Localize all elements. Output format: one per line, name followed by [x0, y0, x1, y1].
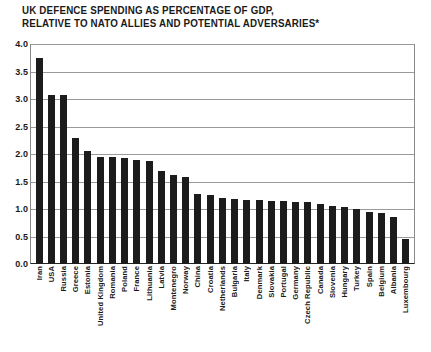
bar-russia	[60, 95, 67, 264]
y-axis-labels: 4.03.53.02.52.01.51.00.50.0	[0, 44, 28, 264]
bar-china	[194, 194, 201, 264]
x-tick-label-usa: USA	[47, 266, 56, 282]
x-label-slot: Slovakia	[265, 266, 277, 352]
x-tick-label-czech-republic: Czech Republic	[303, 266, 312, 324]
x-tick-label-slovenia: Slovenia	[328, 266, 337, 298]
bar-slot	[314, 44, 326, 264]
bar-belgium	[378, 213, 385, 264]
x-label-slot: Czech Republic	[302, 266, 314, 352]
x-label-slot: Lithuania	[143, 266, 155, 352]
bar-latvia	[158, 171, 165, 265]
x-label-slot: Greece	[70, 266, 82, 352]
y-tick-label: 4.0	[2, 39, 28, 49]
x-label-slot: Croatia	[204, 266, 216, 352]
bar-canada	[317, 204, 324, 265]
x-tick-label-france: France	[132, 266, 141, 292]
x-label-slot: Poland	[119, 266, 131, 352]
bar-bulgaria	[231, 199, 238, 264]
bar-netherlands	[219, 198, 226, 264]
x-tick-label-canada: Canada	[316, 266, 325, 294]
bar-slot	[387, 44, 399, 264]
x-label-slot: Bulgaria	[229, 266, 241, 352]
x-tick-label-china: China	[193, 266, 202, 288]
x-label-slot: China	[192, 266, 204, 352]
x-tick-label-poland: Poland	[120, 266, 129, 292]
x-label-slot: Italy	[241, 266, 253, 352]
x-label-slot: Hungary	[338, 266, 350, 352]
x-label-slot: Turkey	[351, 266, 363, 352]
bar-slot	[277, 44, 289, 264]
x-label-slot: USA	[45, 266, 57, 352]
bar-slot	[290, 44, 302, 264]
bar-usa	[48, 95, 55, 264]
bar-slot	[119, 44, 131, 264]
x-tick-label-estonia: Estonia	[83, 266, 92, 294]
y-tick-label: 1.5	[2, 177, 28, 187]
bar-slot	[204, 44, 216, 264]
x-label-slot: Russia	[57, 266, 69, 352]
x-label-slot: United Kingdom	[94, 266, 106, 352]
bar-norway	[182, 177, 189, 264]
bar-slot	[106, 44, 118, 264]
x-tick-label-slovakia: Slovakia	[267, 266, 276, 298]
bar-greece	[72, 138, 79, 265]
x-tick-label-spain: Spain	[365, 266, 374, 287]
bar-croatia	[207, 195, 214, 264]
bar-slot	[229, 44, 241, 264]
bar-slot	[167, 44, 179, 264]
x-label-slot: Luxembourg	[400, 266, 412, 352]
bar-luxembourg	[402, 239, 409, 264]
bar-spain	[366, 212, 373, 264]
bar-slot	[131, 44, 143, 264]
bar-portugal	[280, 201, 287, 264]
bar-germany	[292, 202, 299, 264]
bar-slot	[375, 44, 387, 264]
x-tick-label-turkey: Turkey	[352, 266, 361, 291]
bar-albania	[390, 217, 397, 264]
bar-slot	[253, 44, 265, 264]
y-tick-label: 0.5	[2, 232, 28, 242]
x-tick-label-lithuania: Lithuania	[145, 266, 154, 301]
x-tick-label-germany: Germany	[291, 266, 300, 300]
bar-slot	[192, 44, 204, 264]
x-tick-label-netherlands: Netherlands	[218, 266, 227, 311]
bar-slot	[302, 44, 314, 264]
x-label-slot: Belgium	[375, 266, 387, 352]
x-tick-label-greece: Greece	[71, 266, 80, 292]
x-tick-label-romania: Romania	[108, 266, 117, 299]
x-label-slot: Netherlands	[216, 266, 228, 352]
bar-slot	[326, 44, 338, 264]
bar-slot	[57, 44, 69, 264]
bar-slot	[94, 44, 106, 264]
bar-slot	[155, 44, 167, 264]
bar-slot	[143, 44, 155, 264]
bar-united-kingdom	[97, 157, 104, 264]
bar-slot	[45, 44, 57, 264]
x-tick-label-luxembourg: Luxembourg	[401, 266, 410, 313]
bar-france	[133, 160, 140, 265]
x-label-slot: Denmark	[253, 266, 265, 352]
y-tick-label: 0.0	[2, 259, 28, 269]
y-tick-label: 3.0	[2, 94, 28, 104]
x-label-slot: Montenegro	[167, 266, 179, 352]
x-tick-label-iran: Iran	[35, 266, 44, 280]
x-label-slot: Germany	[290, 266, 302, 352]
x-tick-label-russia: Russia	[59, 266, 68, 292]
x-tick-label-denmark: Denmark	[255, 266, 264, 299]
bar-poland	[121, 158, 128, 264]
x-label-slot: Estonia	[82, 266, 94, 352]
bar-estonia	[84, 151, 91, 264]
bar-italy	[243, 200, 250, 264]
bar-slot	[216, 44, 228, 264]
x-label-slot: Spain	[363, 266, 375, 352]
bar-lithuania	[146, 161, 153, 264]
x-label-slot: Canada	[314, 266, 326, 352]
bar-romania	[109, 157, 116, 264]
x-label-slot: Slovenia	[326, 266, 338, 352]
bar-slot	[400, 44, 412, 264]
x-tick-label-portugal: Portugal	[279, 266, 288, 298]
bar-iran	[36, 58, 43, 264]
bar-slot	[70, 44, 82, 264]
x-tick-label-italy: Italy	[242, 266, 251, 282]
bar-slot	[351, 44, 363, 264]
